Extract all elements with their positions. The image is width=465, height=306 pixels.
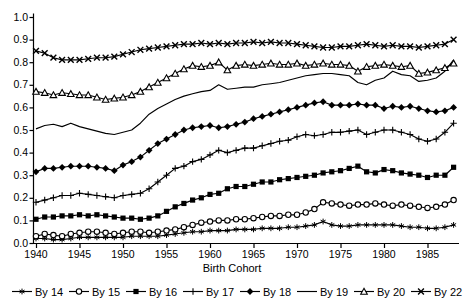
y-tick-label: 1.0 — [13, 11, 28, 23]
y-axis: 0.00.10.20.30.40.50.60.70.80.91.0 — [13, 11, 33, 249]
legend-item-by-22: By 22 — [411, 286, 462, 298]
y-tick-label: 0.8 — [13, 56, 28, 68]
y-tick-label: 0.2 — [13, 191, 28, 203]
x-tick-label: 1980 — [372, 248, 396, 260]
x-tick-label: 1940 — [24, 248, 48, 260]
x-tick-label: 1960 — [198, 248, 222, 260]
series-by-17 — [33, 120, 457, 206]
series-line — [36, 166, 454, 219]
x-tick-label: 1985 — [416, 248, 440, 260]
legend-item-by-20: By 20 — [354, 286, 405, 298]
x-tick-label: 1965 — [242, 248, 266, 260]
line-chart-figure: 0.00.10.20.30.40.50.60.70.80.91.01940194… — [0, 0, 465, 306]
series-line — [36, 102, 454, 172]
legend-item-by-19: By 19 — [297, 286, 348, 298]
legend-label: By 15 — [92, 286, 120, 298]
legend: By 14By 15By 16By 17By 18By 19By 20By 22 — [12, 286, 462, 298]
legend-item-by-14: By 14 — [12, 286, 63, 298]
legend-label: By 18 — [263, 286, 291, 298]
legend-item-by-17: By 17 — [183, 286, 234, 298]
series-by-15 — [33, 197, 456, 239]
y-tick-label: 0.1 — [13, 214, 28, 226]
x-tick-label: 1975 — [329, 248, 353, 260]
y-tick-label: 0.3 — [13, 169, 28, 181]
y-tick-label: 0.9 — [13, 33, 28, 45]
y-tick-label: 0.6 — [13, 101, 28, 113]
x-tick-label: 1955 — [155, 248, 179, 260]
x-tick-label: 1970 — [285, 248, 309, 260]
legend-label: By 22 — [434, 286, 462, 298]
legend-item-by-15: By 15 — [69, 286, 120, 298]
legend-label: By 16 — [149, 286, 177, 298]
x-axis-title: Birth Cohort — [203, 262, 262, 274]
plot-svg: 0.00.10.20.30.40.50.60.70.80.91.01940194… — [0, 0, 465, 306]
legend-item-by-18: By 18 — [240, 286, 291, 298]
x-tick-label: 1950 — [111, 248, 135, 260]
legend-label: By 20 — [377, 286, 405, 298]
y-tick-label: 0.0 — [13, 237, 28, 249]
legend-label: By 17 — [206, 286, 234, 298]
legend-label: By 19 — [320, 286, 348, 298]
legend-label: By 14 — [35, 286, 63, 298]
y-tick-label: 0.5 — [13, 124, 28, 136]
series-by-20 — [33, 59, 457, 102]
series-by-18 — [33, 98, 457, 175]
y-tick-label: 0.7 — [13, 78, 28, 90]
legend-item-by-16: By 16 — [126, 286, 177, 298]
x-axis: 1940194519501955196019651970197519801985… — [24, 244, 439, 274]
series-line — [36, 123, 454, 202]
x-tick-label: 1945 — [68, 248, 92, 260]
series-by-22 — [33, 37, 456, 63]
y-tick-label: 0.4 — [13, 146, 28, 158]
